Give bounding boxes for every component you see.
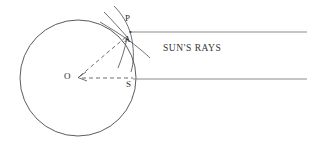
radius-line-O-A <box>80 36 127 76</box>
sun-rays-caption: SUN'S RAYS <box>163 44 221 54</box>
point-marker-P <box>129 31 131 33</box>
point-label-o: O <box>64 72 71 81</box>
point-label-s: S <box>126 80 131 89</box>
point-label-p: P <box>125 14 130 23</box>
geometry-diagram: P A O S SUN'S RAYS <box>0 0 319 152</box>
diagram-canvas <box>0 0 319 152</box>
point-label-a: A <box>124 35 131 44</box>
